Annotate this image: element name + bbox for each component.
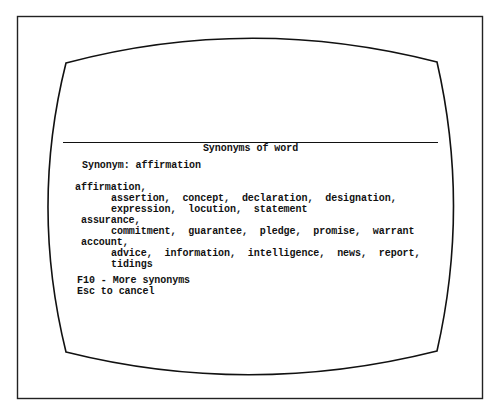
synonym-label: Synonym: [82,160,130,171]
synonym-list-line[interactable]: commitment, guarantee, pledge, promise, … [111,226,415,237]
synonym-prompt: Synonym: affirmation [82,160,201,171]
more-synonyms-hint[interactable]: F10 - More synonyms [77,275,190,286]
dialog-title: Synonyms of word [63,143,438,155]
synonym-input[interactable]: affirmation [136,160,201,171]
group-headword[interactable]: affirmation, [75,182,146,193]
synonym-list-line[interactable]: tidings [111,259,153,270]
synonym-list-line[interactable]: expression, locution, statement [111,204,307,215]
group-headword[interactable]: assurance, [81,215,141,226]
cancel-hint[interactable]: Esc to cancel [77,286,154,297]
synonym-list-line[interactable]: advice, information, intelligence, news,… [111,248,420,259]
group-headword[interactable]: account, [81,237,129,248]
synonym-list-line[interactable]: assertion, concept, declaration, designa… [111,193,397,204]
